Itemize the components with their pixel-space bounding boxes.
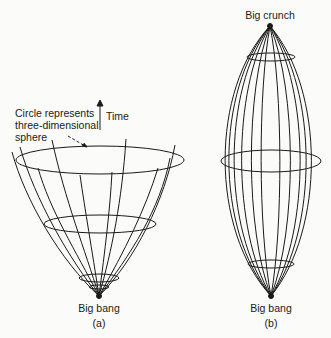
annotation-line-1: Circle represents (15, 107, 94, 119)
diagram-canvas (0, 0, 331, 338)
big-bang-point-b (269, 294, 274, 299)
big-bang-label-b: Big bang (250, 302, 291, 314)
time-label: Time (106, 110, 129, 122)
caption-b: (b) (265, 317, 278, 329)
big-crunch-point (268, 24, 273, 29)
big-bang-label-a: Big bang (78, 302, 119, 314)
annotation-line-2: three-dimensional (15, 119, 98, 131)
annotation-line-3: sphere (15, 131, 47, 143)
caption-a: (a) (93, 317, 106, 329)
big-crunch-label: Big crunch (245, 9, 295, 21)
big-bang-point-a (97, 294, 102, 299)
panel-b-lens (221, 26, 321, 296)
